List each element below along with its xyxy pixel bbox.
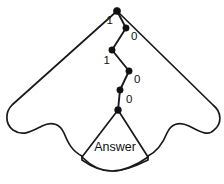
tree-node-4 xyxy=(117,87,123,93)
edge-label-4: 0 xyxy=(126,93,132,105)
edge-label-3: 0 xyxy=(134,73,140,85)
edge-label-1: 0 xyxy=(131,30,137,42)
tree-node-3 xyxy=(126,68,132,74)
edge-label-2: 1 xyxy=(104,54,110,66)
tree-node-1 xyxy=(123,25,129,31)
answer-label: Answer xyxy=(94,140,136,154)
edge-label-0: 1 xyxy=(107,14,113,26)
tree-node-5 xyxy=(115,107,122,114)
search-space-diagram: 1 0 1 0 0 Answer xyxy=(0,0,224,184)
diagram-canvas: 1 0 1 0 0 Answer xyxy=(0,0,224,184)
tree-node-2 xyxy=(109,47,115,53)
tree-node-root xyxy=(113,7,120,14)
